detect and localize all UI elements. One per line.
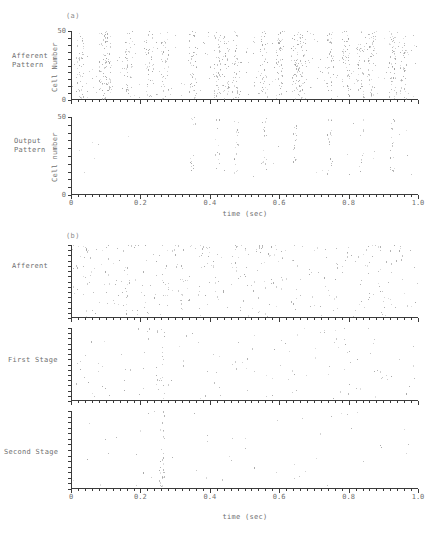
x-tick-label: 0.4 xyxy=(203,493,216,501)
x-axis-title: time (sec) xyxy=(222,513,267,521)
raster-plot xyxy=(71,411,418,489)
x-axis-title: time (sec) xyxy=(222,210,267,218)
x-tick-label: 1.0 xyxy=(412,493,425,501)
spike-dots xyxy=(71,411,418,489)
y-tick-label: 0 xyxy=(57,96,66,104)
row-label: Afferent xyxy=(12,262,48,271)
y-tick-label: 50 xyxy=(53,27,66,35)
row-label: Output Pattern xyxy=(14,137,46,155)
row-label: Afferent Pattern xyxy=(12,52,48,70)
x-tick-label: 0.6 xyxy=(273,493,286,501)
y-axis-title: Cell Number xyxy=(51,42,59,92)
raster-plot xyxy=(71,31,418,100)
raster-plot xyxy=(71,117,418,195)
x-tick-label: 0.2 xyxy=(134,493,147,501)
x-tick-label: 0.4 xyxy=(203,199,216,207)
panel-tag-a: (a) xyxy=(66,12,80,20)
panel-tag-b: (b) xyxy=(66,232,80,240)
spike-dots xyxy=(71,117,418,195)
row-label: First Stage xyxy=(8,356,58,365)
x-tick-label: 0.6 xyxy=(273,199,286,207)
row-label: Second Stage xyxy=(4,448,58,457)
x-tick-label: 0.8 xyxy=(342,493,355,501)
raster-plot xyxy=(71,245,418,318)
y-tick-label: 50 xyxy=(53,113,66,121)
spike-dots xyxy=(71,31,418,100)
spike-dots xyxy=(71,328,418,401)
raster-figure: (a)050Cell NumberAfferent Pattern050Cell… xyxy=(0,0,438,535)
raster-plot xyxy=(71,328,418,401)
x-tick-label: 0.8 xyxy=(342,199,355,207)
y-tick-label: 0 xyxy=(57,191,66,199)
y-axis-title: Cell number xyxy=(51,132,59,182)
x-tick-label: 0.2 xyxy=(134,199,147,207)
spike-dots xyxy=(71,245,418,318)
x-tick-label: 0 xyxy=(69,199,73,207)
x-tick-label: 1.0 xyxy=(412,199,425,207)
x-tick-label: 0 xyxy=(69,493,73,501)
